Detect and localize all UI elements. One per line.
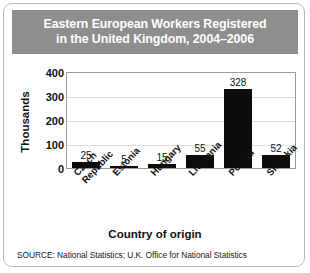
bar-value-label: 328 (230, 77, 247, 88)
chart-title-line-1: Eastern European Workers Registered (44, 17, 267, 32)
source-note: SOURCE: National Statistics; U.K. Office… (17, 250, 302, 260)
y-tick-300: 300 (26, 91, 64, 103)
y-tick-200: 200 (26, 115, 64, 127)
chart-card: Eastern European Workers Registered in t… (3, 3, 305, 267)
x-axis-title: Country of origin (4, 228, 305, 240)
chart-title-line-2: in the United Kingdom, 2004–2006 (56, 32, 254, 47)
y-tick-0: 0 (26, 163, 64, 175)
bar-chart: Thousands 400 300 200 100 0 25 5 (4, 54, 305, 266)
y-tick-400: 400 (26, 67, 64, 79)
x-axis-tick-labels: Czech Republic Estonia Hungary Lithuania… (66, 171, 296, 233)
chart-title-banner: Eastern European Workers Registered in t… (12, 10, 298, 54)
y-tick-100: 100 (26, 139, 64, 151)
